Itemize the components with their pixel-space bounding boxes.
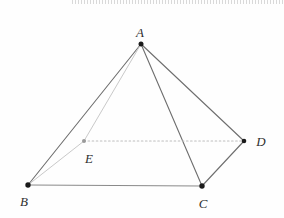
edge-AC (141, 44, 202, 186)
figure-canvas: ABCDE (0, 0, 284, 218)
vertex-dot-E (82, 139, 86, 143)
edge-BE-hidden (28, 141, 84, 185)
vertex-dot-A (139, 42, 144, 47)
edge-CD (202, 141, 244, 186)
vertex-label-A: A (135, 25, 144, 40)
vertex-label-B: B (20, 194, 28, 209)
edge-AE-hidden (84, 44, 141, 141)
edge-AD (141, 44, 244, 141)
vertex-label-E: E (84, 151, 93, 166)
vertex-dot-B (25, 182, 30, 187)
vertex-dot-D (242, 139, 247, 144)
vertex-label-C: C (199, 196, 208, 211)
edge-BC (28, 185, 202, 186)
vertex-label-D: D (255, 134, 266, 149)
pyramid-diagram: ABCDE (0, 0, 284, 218)
vertex-dot-C (199, 183, 204, 188)
